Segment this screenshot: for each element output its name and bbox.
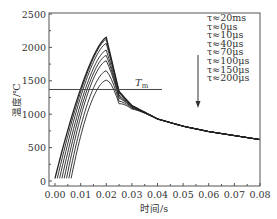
x-tick-label: 0.08 xyxy=(249,189,270,200)
melting-point-label: Tm xyxy=(135,77,149,90)
temperature-curve xyxy=(71,80,260,178)
x-tick-label: 0.06 xyxy=(198,189,219,200)
y-tick-label: 2000 xyxy=(22,42,46,53)
y-axis-label: 温度/℃ xyxy=(11,83,22,117)
y-tick-label: 500 xyxy=(28,142,46,153)
y-axis-ticks: 05001000150020002500 xyxy=(22,9,52,187)
temperature-curve xyxy=(69,71,260,179)
legend-item: τ≈200μs xyxy=(207,72,250,83)
x-axis-label: 时间/s xyxy=(140,203,168,214)
x-tick-label: 0.01 xyxy=(70,189,91,200)
x-tick-label: 0.03 xyxy=(121,189,142,200)
x-tick-label: 0.05 xyxy=(173,189,194,200)
x-tick-label: 0.07 xyxy=(224,189,245,200)
legend: τ≈20msτ≈0μsτ≈10μsτ≈40μsτ≈70μsτ≈100μsτ≈15… xyxy=(207,12,250,83)
y-tick-label: 2500 xyxy=(22,9,46,20)
y-tick-label: 1500 xyxy=(22,75,46,86)
x-tick-label: 0.00 xyxy=(44,189,65,200)
y-tick-label: 1000 xyxy=(22,109,46,120)
x-tick-label: 0.02 xyxy=(96,189,117,200)
down-arrow-icon xyxy=(196,55,201,108)
x-tick-label: 0.04 xyxy=(147,189,168,200)
chart: Tm 0.000.010.020.030.040.050.060.070.08 … xyxy=(0,0,277,219)
y-tick-label: 0 xyxy=(40,176,46,187)
